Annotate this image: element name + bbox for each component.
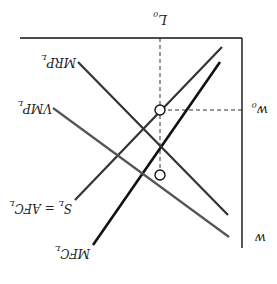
y-axis-label: w (255, 231, 266, 246)
supply-label-rest: = AFC (15, 201, 59, 215)
lower-intersection-point (155, 105, 165, 115)
diagram-stage: w L0 w0 MFCL SL = AFCL VMPL MRPL (0, 0, 277, 284)
vmp-label-main: VMP (22, 101, 52, 115)
labor-market-diagram: w L0 w0 MFCL SL = AFCL VMPL MRPL (0, 0, 277, 284)
mfc-label: MFCL (55, 244, 91, 260)
mrp-label-main: MRP (46, 55, 77, 69)
l0-main: L (158, 12, 168, 27)
supply-label: SL = AFCL (9, 199, 72, 215)
upper-intersection-point (155, 170, 165, 180)
supply-label-main: S (64, 201, 72, 215)
w0-label: w0 (252, 101, 268, 118)
w0-sub: 0 (252, 101, 257, 110)
l0-label: L0 (153, 10, 168, 27)
w0-main: w (257, 103, 268, 118)
mrp-label: MRPL (41, 53, 77, 69)
vmp-label: VMPL (18, 99, 52, 115)
l0-sub: 0 (153, 10, 158, 19)
mfc-label-main: MFC (60, 246, 91, 260)
